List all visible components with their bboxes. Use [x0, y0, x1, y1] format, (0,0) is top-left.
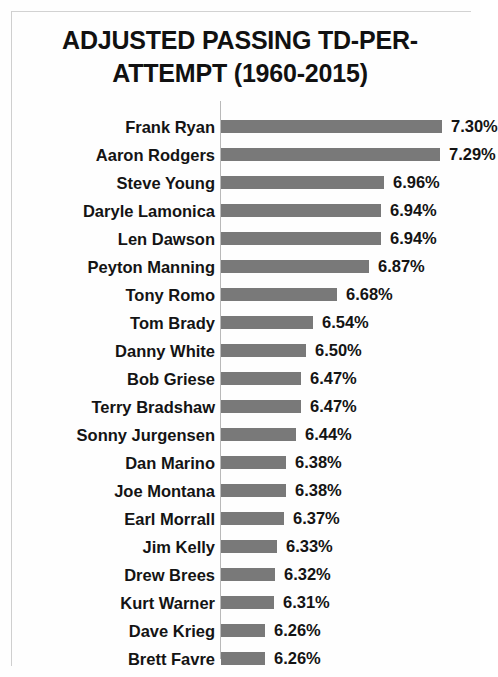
bar-row: Terry Bradshaw6.47% [0, 393, 480, 421]
bar-row: Brett Favre6.26% [0, 645, 480, 673]
chart-title: ADJUSTED PASSING TD-PER- ATTEMPT (1960-2… [18, 24, 462, 90]
bar-category-label: Earl Morrall [124, 509, 215, 529]
bar-category-label: Jim Kelly [143, 537, 215, 557]
bar-category-label: Brett Favre [128, 649, 215, 669]
bar-value-label: 6.32% [284, 564, 331, 584]
bar-row: Tony Romo6.68% [0, 281, 480, 309]
bar-track [221, 288, 337, 301]
bar-value-label: 6.33% [286, 536, 333, 556]
bar-fill [221, 120, 442, 133]
bar-category-label: Dan Marino [125, 453, 215, 473]
bar-row: Bob Griese6.47% [0, 365, 480, 393]
bar-fill [221, 652, 265, 665]
bar-fill [221, 204, 381, 217]
bar-track [221, 260, 369, 273]
bar-fill [221, 428, 296, 441]
bar-row: Aaron Rodgers7.29% [0, 141, 480, 169]
bar-row: Daryle Lamonica6.94% [0, 197, 480, 225]
bar-category-label: Frank Ryan [125, 117, 215, 137]
bar-fill [221, 148, 440, 161]
bar-row: Sonny Jurgensen6.44% [0, 421, 480, 449]
bar-value-label: 6.87% [378, 256, 425, 276]
bar-track [221, 652, 265, 665]
bar-category-label: Len Dawson [118, 229, 215, 249]
bar-fill [221, 260, 369, 273]
bar-value-label: 7.30% [451, 116, 498, 136]
bar-fill [221, 596, 274, 609]
bar-track [221, 568, 275, 581]
bar-fill [221, 568, 275, 581]
bar-value-label: 6.96% [393, 172, 440, 192]
bar-track [221, 428, 296, 441]
bar-track [221, 176, 384, 189]
bar-row: Tom Brady6.54% [0, 309, 480, 337]
bar-track [221, 400, 301, 413]
bar-value-label: 7.29% [449, 144, 496, 164]
bar-fill [221, 400, 301, 413]
bar-value-label: 6.26% [274, 648, 321, 668]
bar-row: Frank Ryan7.30% [0, 113, 480, 141]
bar-category-label: Daryle Lamonica [83, 201, 215, 221]
bar-value-label: 6.38% [295, 480, 342, 500]
bar-row: Dan Marino6.38% [0, 449, 480, 477]
bar-row: Drew Brees6.32% [0, 561, 480, 589]
bar-track [221, 344, 306, 357]
bar-category-label: Joe Montana [114, 481, 215, 501]
bar-fill [221, 456, 286, 469]
page-border-top [11, 11, 471, 12]
bar-category-label: Bob Griese [127, 369, 215, 389]
bar-row: Len Dawson6.94% [0, 225, 480, 253]
chart-title-line-1: ADJUSTED PASSING TD-PER- [18, 24, 462, 57]
bar-category-label: Drew Brees [124, 565, 215, 585]
bar-value-label: 6.38% [295, 452, 342, 472]
bar-track [221, 204, 381, 217]
bar-category-label: Terry Bradshaw [92, 397, 216, 417]
bar-category-label: Steve Young [117, 173, 215, 193]
bar-value-label: 6.47% [310, 368, 357, 388]
bar-fill [221, 372, 301, 385]
bar-value-label: 6.37% [293, 508, 340, 528]
bar-value-label: 6.68% [346, 284, 393, 304]
bar-value-label: 6.94% [390, 228, 437, 248]
bar-category-label: Sonny Jurgensen [77, 425, 215, 445]
bar-track [221, 596, 274, 609]
bar-track [221, 456, 286, 469]
bar-fill [221, 288, 337, 301]
bar-category-label: Tom Brady [130, 313, 215, 333]
bar-track [221, 120, 442, 133]
bar-value-label: 6.26% [274, 620, 321, 640]
bar-fill [221, 232, 381, 245]
bar-track [221, 372, 301, 385]
bar-fill [221, 316, 313, 329]
bar-row: Peyton Manning6.87% [0, 253, 480, 281]
bar-fill [221, 540, 277, 553]
bar-row: Earl Morrall6.37% [0, 505, 480, 533]
bar-track [221, 148, 440, 161]
bar-row: Joe Montana6.38% [0, 477, 480, 505]
bar-category-label: Peyton Manning [88, 257, 215, 277]
bar-category-label: Kurt Warner [120, 593, 215, 613]
bar-value-label: 6.44% [305, 424, 352, 444]
bar-fill [221, 624, 265, 637]
bar-value-label: 6.50% [315, 340, 362, 360]
bar-fill [221, 176, 384, 189]
bar-track [221, 232, 381, 245]
bar-category-label: Dave Krieg [129, 621, 215, 641]
bar-track [221, 316, 313, 329]
bar-category-label: Aaron Rodgers [96, 145, 215, 165]
bar-row: Steve Young6.96% [0, 169, 480, 197]
chart-title-line-2: ATTEMPT (1960-2015) [18, 57, 462, 90]
bar-category-label: Tony Romo [125, 285, 215, 305]
bar-track [221, 484, 286, 497]
bar-fill [221, 344, 306, 357]
bar-fill [221, 512, 284, 525]
bar-value-label: 6.94% [390, 200, 437, 220]
bar-fill [221, 484, 286, 497]
bar-row: Kurt Warner6.31% [0, 589, 480, 617]
bar-track [221, 540, 277, 553]
bar-value-label: 6.31% [283, 592, 330, 612]
bar-row: Danny White6.50% [0, 337, 480, 365]
bar-chart-plot-area: Frank Ryan7.30%Aaron Rodgers7.29%Steve Y… [0, 99, 480, 667]
bar-value-label: 6.47% [310, 396, 357, 416]
